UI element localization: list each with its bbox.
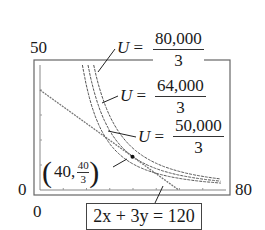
u3-fraction: 50,000 3 xyxy=(173,117,224,156)
constraint-equation-label: 2x + 3y = 120 xyxy=(86,203,202,230)
optimum-point-label: ( 40, 40 3 ) xyxy=(42,157,99,187)
x-max-label: 80 xyxy=(235,181,252,198)
y-max-label: 50 xyxy=(30,39,47,56)
u3-label: U = xyxy=(138,128,164,145)
y-min-label: 0 xyxy=(18,181,27,198)
u1-fraction: 80,000 3 xyxy=(153,30,204,69)
leader-point xyxy=(113,159,127,167)
leader-u2 xyxy=(102,96,118,103)
u2-fraction: 64,000 3 xyxy=(155,77,206,116)
u2-label: U = xyxy=(120,87,146,104)
x-min-label: 0 xyxy=(33,203,42,220)
optimum-point xyxy=(131,155,135,159)
plot-canvas xyxy=(0,0,265,230)
u1-label: U = xyxy=(117,39,143,56)
